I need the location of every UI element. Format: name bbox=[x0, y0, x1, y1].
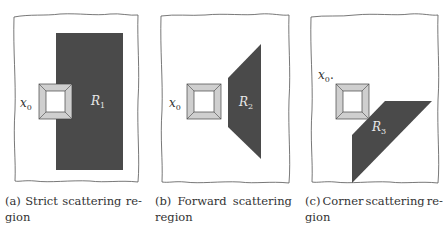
region-r: R bbox=[372, 120, 381, 134]
caption-line2: region bbox=[155, 209, 292, 225]
caption-word: re- bbox=[427, 193, 443, 209]
region-label-r3: R3 bbox=[372, 120, 386, 136]
region-r: R bbox=[239, 95, 248, 109]
caption-line2: gion bbox=[5, 209, 142, 225]
scatterer-square bbox=[39, 84, 72, 119]
panel-a bbox=[14, 14, 139, 182]
caption-word: (a) bbox=[5, 193, 21, 209]
point-label-c: x0. bbox=[318, 68, 334, 84]
caption-line2: gion bbox=[305, 209, 443, 225]
caption-line1: (c) Corner scattering re- bbox=[305, 193, 443, 209]
region-subscript: 1 bbox=[100, 101, 105, 110]
caption-word: Strict bbox=[25, 193, 58, 209]
region-label-r2: R2 bbox=[239, 95, 253, 111]
caption-line1: (b) Forward scattering bbox=[155, 193, 292, 209]
caption-word: scattering bbox=[233, 193, 292, 209]
caption-c: (c) Corner scattering re- gion bbox=[305, 193, 443, 225]
caption-word: scattering bbox=[62, 193, 121, 209]
caption-b: (b) Forward scattering region bbox=[155, 193, 292, 225]
region-subscript: 3 bbox=[381, 127, 386, 136]
panel-c bbox=[311, 14, 439, 183]
scatterer-square bbox=[336, 84, 369, 119]
point-subscript: 0 bbox=[176, 103, 181, 112]
caption-word: re- bbox=[126, 193, 142, 209]
region-subscript: 2 bbox=[248, 102, 253, 111]
caption-line1: (a) Strict scattering re- bbox=[5, 193, 142, 209]
point-subscript: 0 bbox=[27, 103, 32, 112]
region-label-r1: R1 bbox=[91, 94, 105, 110]
point-x: x bbox=[169, 96, 176, 110]
caption-word: scattering bbox=[366, 193, 425, 209]
point-x: x bbox=[20, 96, 27, 110]
point-x: x bbox=[318, 68, 325, 82]
scatterer-square bbox=[187, 84, 221, 119]
point-label-a: x0 bbox=[20, 96, 32, 112]
caption-word: (b) bbox=[155, 193, 171, 209]
caption-word: Forward bbox=[177, 193, 226, 209]
point-label-b: x0 bbox=[169, 96, 181, 112]
caption-word: Corner bbox=[323, 193, 364, 209]
point-suffix: . bbox=[330, 68, 334, 82]
caption-word: (c) bbox=[305, 193, 320, 209]
caption-a: (a) Strict scattering re- gion bbox=[5, 193, 142, 225]
region-r: R bbox=[91, 94, 100, 108]
